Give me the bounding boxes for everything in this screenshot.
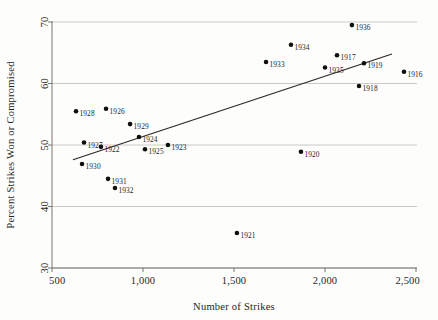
data-point[interactable] bbox=[362, 61, 367, 66]
data-point-label: 1930 bbox=[86, 162, 101, 171]
data-point-label: 1926 bbox=[110, 107, 125, 116]
data-point[interactable] bbox=[128, 122, 133, 127]
data-point[interactable] bbox=[74, 109, 79, 114]
y-tick-label: 40 bbox=[39, 201, 50, 212]
data-point[interactable] bbox=[113, 186, 118, 191]
x-tick-labels-group: 5001,0001,5002,0002,500 bbox=[49, 275, 420, 286]
data-point[interactable] bbox=[402, 70, 407, 75]
data-point-label: 1932 bbox=[118, 186, 133, 195]
x-axis-title: Number of Strikes bbox=[193, 301, 275, 312]
scatter-plot-figure: 3040506070 5001,0001,5002,0002,500 19161… bbox=[0, 0, 438, 320]
data-point-label: 1916 bbox=[407, 70, 422, 79]
data-point-label: 1935 bbox=[329, 66, 344, 75]
x-tick-label: 2,000 bbox=[313, 275, 338, 286]
data-point-labels-group: 1916191719181919192019211922192319241925… bbox=[80, 23, 423, 240]
data-point-label: 1919 bbox=[367, 61, 382, 70]
data-point-label: 1918 bbox=[363, 84, 378, 93]
x-tick-label: 500 bbox=[49, 275, 65, 286]
data-point[interactable] bbox=[289, 42, 294, 47]
data-point[interactable] bbox=[82, 140, 87, 145]
y-axis-title: Percent Strikes Won or Compromised bbox=[5, 61, 16, 229]
data-point-label: 1936 bbox=[355, 23, 370, 32]
x-tick-label: 2,500 bbox=[395, 275, 420, 286]
data-point-label: 1927 bbox=[88, 141, 103, 150]
data-point[interactable] bbox=[350, 23, 355, 28]
y-tick-label: 60 bbox=[39, 78, 50, 89]
data-point-label: 1922 bbox=[104, 145, 119, 154]
data-point-label: 1921 bbox=[240, 231, 255, 240]
plot-canvas: 3040506070 5001,0001,5002,0002,500 19161… bbox=[0, 0, 438, 320]
data-point[interactable] bbox=[166, 143, 171, 148]
data-point[interactable] bbox=[357, 84, 362, 89]
x-tick-label: 1,000 bbox=[131, 275, 156, 286]
data-point-label: 1934 bbox=[294, 43, 309, 52]
data-point-label: 1931 bbox=[112, 177, 127, 186]
data-point-label: 1917 bbox=[341, 53, 356, 62]
y-tick-label: 70 bbox=[39, 17, 50, 28]
data-point[interactable] bbox=[143, 147, 148, 152]
data-point-label: 1928 bbox=[80, 109, 95, 118]
y-tick-label: 30 bbox=[39, 263, 50, 274]
data-point[interactable] bbox=[106, 177, 111, 182]
data-point[interactable] bbox=[264, 60, 269, 65]
x-tick-label: 1,500 bbox=[222, 275, 247, 286]
data-point-label: 1923 bbox=[171, 143, 186, 152]
data-point[interactable] bbox=[335, 53, 340, 58]
data-point[interactable] bbox=[299, 149, 304, 154]
data-point[interactable] bbox=[80, 162, 85, 167]
y-tick-labels-group: 3040506070 bbox=[39, 17, 50, 274]
data-point[interactable] bbox=[235, 231, 240, 236]
y-tick-label: 50 bbox=[39, 140, 50, 151]
data-point[interactable] bbox=[323, 65, 328, 70]
data-point[interactable] bbox=[104, 106, 109, 111]
data-point-label: 1925 bbox=[149, 147, 164, 156]
data-point-label: 1933 bbox=[270, 60, 285, 69]
data-point[interactable] bbox=[137, 135, 142, 140]
data-points-group bbox=[74, 23, 407, 235]
data-point-label: 1920 bbox=[304, 150, 319, 159]
data-point-label: 1929 bbox=[134, 122, 149, 131]
data-point-label: 1924 bbox=[142, 135, 157, 144]
